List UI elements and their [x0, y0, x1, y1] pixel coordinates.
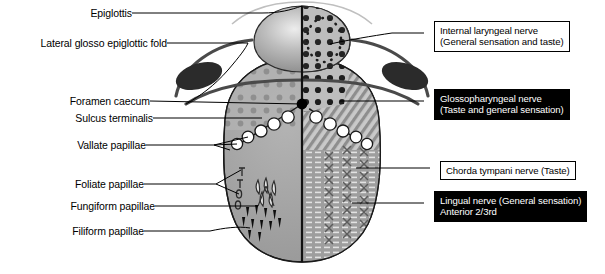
label-foliate-papillae: Foliate papillae: [75, 178, 144, 190]
callout-line-2: Anterior 2/3rd: [440, 206, 581, 217]
callout-line-1: Chorda tympani nerve (Taste): [446, 165, 570, 176]
callout-chorda-tympani-nerve: Chorda tympani nerve (Taste): [440, 161, 576, 180]
label-lateral-glosso-epiglottic-fold: Lateral glosso epiglottic fold: [40, 37, 167, 49]
callout-glossopharyngeal-nerve: Glossopharyngeal nerve (Taste and genera…: [434, 89, 570, 120]
callout-line-1: Lingual nerve (General sensation): [440, 195, 581, 206]
label-filiform-papillae: Filiform papillae: [72, 225, 144, 237]
figure-canvas: Epiglottis Lateral glosso epiglottic fol…: [0, 0, 605, 274]
callout-line-2: (Taste and general sensation): [440, 104, 564, 115]
label-foramen-caecum: Foramen caecum: [70, 95, 150, 107]
label-sulcus-terminalis: Sulcus terminalis: [75, 112, 153, 124]
callout-line-1: Glossopharyngeal nerve: [440, 93, 564, 104]
callout-lingual-nerve: Lingual nerve (General sensation) Anteri…: [434, 191, 587, 222]
callout-internal-laryngeal-nerve: Internal laryngeal nerve (General sensat…: [434, 21, 570, 52]
leader-filiform: [144, 227, 250, 231]
callout-line-2: (General sensation and taste): [440, 36, 564, 47]
label-fungiform-papillae: Fungiform papillae: [70, 200, 155, 212]
label-vallate-papillae: Vallate papillae: [77, 139, 146, 151]
label-epiglottis: Epiglottis: [90, 7, 132, 19]
leader-epiglottis: [132, 6, 302, 13]
callout-line-1: Internal laryngeal nerve: [440, 25, 564, 36]
